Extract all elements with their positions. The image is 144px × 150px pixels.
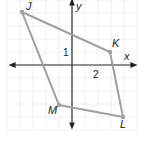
x-axis-label: x [123, 50, 130, 62]
point-label-k: K [112, 37, 120, 49]
point-label-m: M [48, 104, 58, 116]
x-axis [10, 63, 136, 67]
tick-label-1: 1 [63, 47, 69, 58]
tick-label-2: 2 [93, 69, 99, 80]
point-label-j: J [25, 0, 32, 12]
coordinate-plane: y x 1 2 J K L M [0, 0, 144, 150]
y-axis [70, 0, 74, 128]
y-axis-label: y [75, 0, 83, 12]
point-label-l: L [120, 118, 126, 130]
